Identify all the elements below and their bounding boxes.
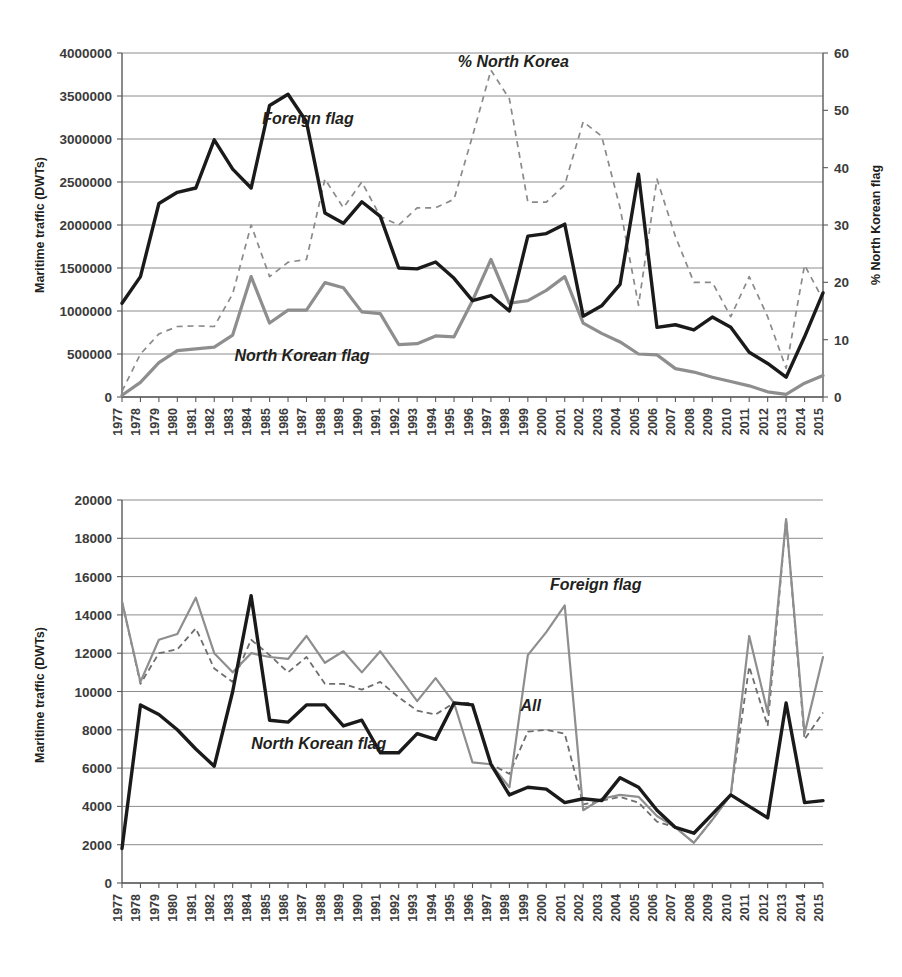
y2-tick-label-2: 20 xyxy=(834,275,849,290)
x-tick-label-5: 1982 xyxy=(203,894,217,922)
series-label-north-korean-flag: North Korean flag xyxy=(235,347,370,364)
x-tick-label-31: 2008 xyxy=(683,408,697,436)
x-tick-label-31: 2008 xyxy=(683,894,697,922)
x-tick-label-5: 1982 xyxy=(203,408,217,436)
x-tick-label-28: 2005 xyxy=(628,894,642,922)
y-tick-label-2: 1000000 xyxy=(59,304,112,319)
x-tick-label-8: 1985 xyxy=(259,894,273,922)
y-tick-label-8: 4000000 xyxy=(59,46,112,61)
x-tick-label-26: 2003 xyxy=(591,408,605,436)
x-tick-label-32: 2009 xyxy=(701,894,715,922)
series-label-north-korean-flag: North Korean flag xyxy=(251,735,386,752)
x-tick-label-14: 1991 xyxy=(369,408,383,436)
top-series-lines xyxy=(122,70,823,395)
y-tick-label-4: 8000 xyxy=(82,723,112,738)
series-line-foreign-flag xyxy=(122,94,823,377)
x-tick-label-21: 1998 xyxy=(498,408,512,436)
x-tick-label-4: 1981 xyxy=(185,408,199,436)
bottom-x-tick-labels: 1977197819791980198119821983198419851986… xyxy=(111,894,826,922)
x-tick-label-1: 1978 xyxy=(129,408,143,436)
x-tick-label-14: 1991 xyxy=(369,894,383,922)
x-tick-label-27: 2004 xyxy=(609,408,623,436)
x-tick-label-33: 2010 xyxy=(720,408,734,436)
series-line-all xyxy=(122,519,823,843)
series-line-north-korean-flag xyxy=(122,596,823,849)
x-tick-label-4: 1981 xyxy=(185,894,199,922)
x-tick-label-2: 1979 xyxy=(148,408,162,436)
x-tick-label-25: 2002 xyxy=(572,894,586,922)
x-tick-label-38: 2015 xyxy=(812,408,826,436)
y-tick-label-0: 0 xyxy=(104,390,112,405)
x-tick-label-7: 1984 xyxy=(240,408,254,436)
x-tick-label-13: 1990 xyxy=(351,894,365,922)
y2-tick-label-5: 50 xyxy=(834,103,849,118)
y2-tick-label-4: 40 xyxy=(834,161,849,176)
x-tick-label-12: 1989 xyxy=(332,894,346,922)
series-label-all: All xyxy=(519,697,541,714)
x-tick-label-6: 1983 xyxy=(222,408,236,436)
x-tick-label-11: 1988 xyxy=(314,894,328,922)
x-tick-label-38: 2015 xyxy=(812,894,826,922)
series-label--north-korea: % North Korea xyxy=(458,53,569,70)
top-y2-tick-labels: 0102030405060 xyxy=(834,46,849,405)
y-tick-label-9: 18000 xyxy=(74,531,112,546)
x-tick-label-8: 1985 xyxy=(259,408,273,436)
x-tick-label-17: 1994 xyxy=(425,408,439,436)
y-tick-label-1: 500000 xyxy=(67,347,112,362)
x-tick-label-20: 1997 xyxy=(480,894,494,922)
x-tick-label-18: 1995 xyxy=(443,408,457,436)
x-tick-label-28: 2005 xyxy=(628,408,642,436)
top-gridlines xyxy=(122,53,823,397)
x-tick-label-27: 2004 xyxy=(609,894,623,922)
y-tick-label-6: 3000000 xyxy=(59,132,112,147)
chart-bottom-maritime-traffic: 0200040006000800010000120001400016000180… xyxy=(0,480,902,977)
x-tick-label-0: 1977 xyxy=(111,894,125,922)
x-tick-label-29: 2006 xyxy=(646,408,660,436)
x-tick-label-33: 2010 xyxy=(720,894,734,922)
x-tick-label-17: 1994 xyxy=(425,894,439,922)
chart-bottom-svg: 0200040006000800010000120001400016000180… xyxy=(0,480,902,977)
y-tick-label-3: 6000 xyxy=(82,761,112,776)
x-tick-label-16: 1993 xyxy=(406,408,420,436)
x-tick-label-10: 1987 xyxy=(295,894,309,922)
y-tick-label-5: 10000 xyxy=(74,685,112,700)
top-y-tick-labels: 0500000100000015000002000000250000030000… xyxy=(59,46,112,405)
x-tick-label-15: 1992 xyxy=(388,894,402,922)
x-tick-label-12: 1989 xyxy=(332,408,346,436)
x-tick-label-35: 2012 xyxy=(757,894,771,922)
y2-tick-label-1: 10 xyxy=(834,333,849,348)
series-label-foreign-flag: Foreign flag xyxy=(550,576,642,593)
x-tick-label-0: 1977 xyxy=(111,408,125,436)
x-tick-label-25: 2002 xyxy=(572,408,586,436)
x-tick-label-37: 2014 xyxy=(794,894,808,922)
x-tick-label-24: 2001 xyxy=(554,408,568,436)
x-tick-label-3: 1980 xyxy=(166,408,180,436)
x-tick-label-15: 1992 xyxy=(388,408,402,436)
x-tick-label-2: 1979 xyxy=(148,894,162,922)
y2-tick-label-6: 60 xyxy=(834,46,849,61)
bottom-series-annotations: Foreign flagNorth Korean flagAll xyxy=(251,576,642,752)
series-line-north-korean-flag xyxy=(122,259,823,395)
y-tick-label-4: 2000000 xyxy=(59,218,112,233)
x-tick-label-34: 2011 xyxy=(738,408,752,435)
series-line--north-korea xyxy=(122,70,823,391)
bottom-axes xyxy=(117,500,823,888)
x-tick-label-11: 1988 xyxy=(314,408,328,436)
top-x-tick-labels: 1977197819791980198119821983198419851986… xyxy=(111,408,826,436)
y-tick-label-5: 2500000 xyxy=(59,175,112,190)
x-tick-label-3: 1980 xyxy=(166,894,180,922)
x-tick-label-24: 2001 xyxy=(554,894,568,922)
y-tick-label-7: 14000 xyxy=(74,608,112,623)
y2-tick-label-3: 30 xyxy=(834,218,849,233)
bottom-gridlines xyxy=(122,500,823,883)
x-tick-label-19: 1996 xyxy=(462,894,476,922)
x-tick-label-35: 2012 xyxy=(757,408,771,436)
x-tick-label-9: 1986 xyxy=(277,894,291,922)
y-tick-label-1: 2000 xyxy=(82,838,112,853)
y-tick-label-3: 1500000 xyxy=(59,261,112,276)
x-tick-label-9: 1986 xyxy=(277,408,291,436)
x-tick-label-26: 2003 xyxy=(591,894,605,922)
x-tick-label-30: 2007 xyxy=(664,408,678,436)
x-tick-label-10: 1987 xyxy=(295,408,309,436)
x-tick-label-34: 2011 xyxy=(738,894,752,921)
